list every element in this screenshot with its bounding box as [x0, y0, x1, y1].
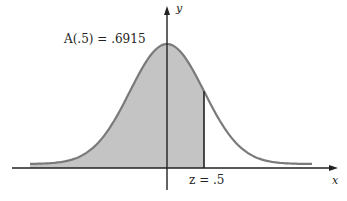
- x-axis-label: x: [332, 174, 338, 187]
- shaded-area: [30, 44, 204, 168]
- y-axis-label: y: [176, 2, 182, 15]
- normal-curve-chart: [0, 0, 347, 201]
- x-axis-arrow-icon: [329, 165, 338, 171]
- y-axis-arrow-icon: [164, 6, 170, 15]
- area-annotation: A(.5) = .6915: [64, 32, 146, 46]
- z-label: z = .5: [189, 173, 224, 187]
